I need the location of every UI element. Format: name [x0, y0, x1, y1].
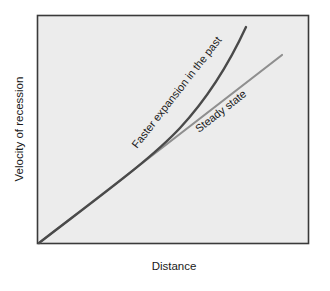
x-axis-label: Distance	[152, 260, 197, 272]
y-axis-label: Velocity of recession	[13, 77, 25, 182]
chart: Faster expansion in the past Steady stat…	[0, 0, 330, 291]
plot-area	[38, 16, 309, 244]
